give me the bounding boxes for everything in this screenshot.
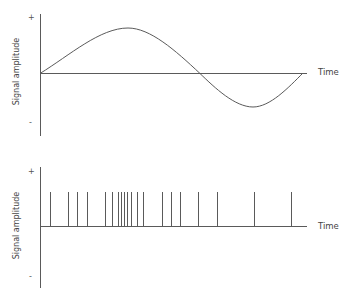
minus-tick-label: - — [29, 118, 32, 127]
spikes-group — [51, 192, 292, 227]
sine-wave-curve — [40, 28, 303, 107]
plus-tick-label: + — [28, 167, 35, 176]
x-axis-label: Time — [318, 67, 339, 77]
y-axis-label: Signal amplitude — [12, 35, 21, 109]
analog-signal-plot — [0, 0, 350, 150]
x-axis-label: Time — [318, 221, 339, 231]
analog-signal-chart: Signal amplitude + - Time — [0, 0, 350, 150]
y-axis-label: Signal amplitude — [12, 189, 21, 263]
spike-train-chart: Signal amplitude + - Time — [0, 150, 350, 299]
plus-tick-label: + — [28, 13, 35, 22]
minus-tick-label: - — [29, 272, 32, 281]
spike-train-plot — [0, 150, 350, 299]
